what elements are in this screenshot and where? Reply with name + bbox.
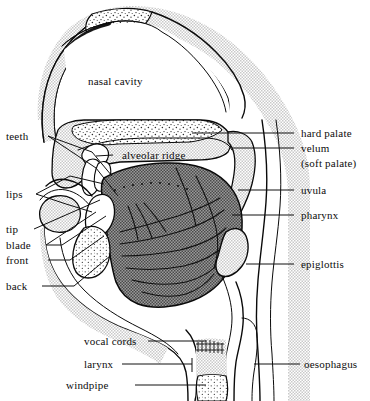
label-velum: velum xyxy=(301,142,330,154)
label-larynx: larynx xyxy=(84,358,114,370)
label-blade: blade xyxy=(6,239,31,251)
label-uvula: uvula xyxy=(301,184,326,196)
label-back: back xyxy=(6,280,28,292)
label-lips: lips xyxy=(6,188,23,200)
pharynx-wall xyxy=(257,120,281,401)
label-tip: tip xyxy=(6,223,19,235)
label-vocal-cords: vocal cords xyxy=(84,335,137,347)
label-hard-palate: hard palate xyxy=(301,127,352,139)
label-epiglottis: epiglottis xyxy=(301,258,344,270)
label-windpipe: windpipe xyxy=(66,379,109,391)
label-front: front xyxy=(6,254,28,266)
label-alveolar-ridge: alveolar ridge xyxy=(122,149,186,161)
label-oesophagus: oesophagus xyxy=(304,358,357,370)
label-teeth: teeth xyxy=(6,130,29,142)
label-pharynx: pharynx xyxy=(301,209,339,221)
diagram-canvas: nasal cavity teeth alveolar ridge lips t… xyxy=(0,0,370,401)
tongue xyxy=(101,163,242,307)
vocal-tract-diagram: nasal cavity teeth alveolar ridge lips t… xyxy=(0,0,370,401)
label-soft-palate: (soft palate) xyxy=(301,157,357,170)
label-nasal-cavity: nasal cavity xyxy=(88,75,143,87)
